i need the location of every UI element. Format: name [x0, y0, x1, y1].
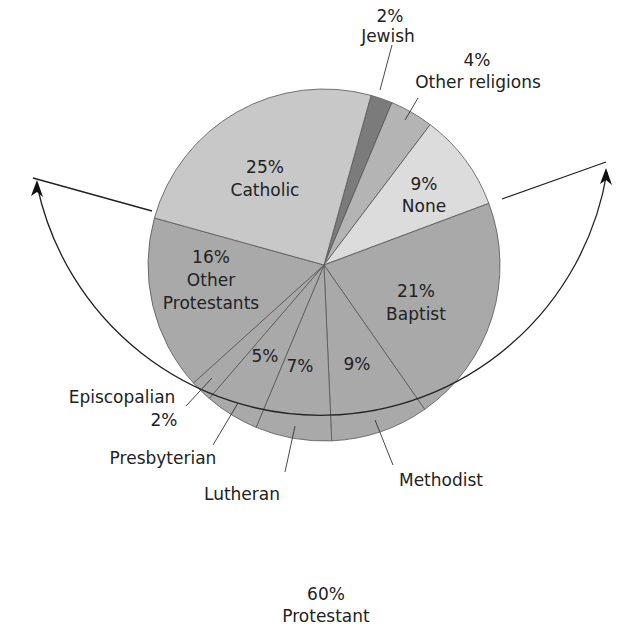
label-baptist: Baptist — [386, 304, 446, 324]
label-presbyterian-pct: 5% — [252, 346, 279, 366]
label-episcopalian: Episcopalian — [69, 387, 176, 407]
label-baptist-pct: 21% — [397, 281, 435, 301]
label-catholic: Catholic — [231, 180, 300, 200]
label-none: None — [402, 196, 446, 216]
label-other-protestants-1: Other — [187, 270, 235, 290]
label-presbyterian: Presbyterian — [110, 448, 217, 468]
label-jewish-pct: 2% — [377, 6, 404, 26]
label-catholic-pct: 25% — [246, 157, 284, 177]
label-jewish: Jewish — [360, 26, 415, 46]
arrowhead-right-icon — [600, 168, 612, 185]
label-methodist-pct: 9% — [344, 354, 371, 374]
label-methodist: Methodist — [399, 470, 483, 490]
label-other-religions-pct: 4% — [464, 50, 491, 70]
pie-chart: 2% Jewish 4% Other religions 9% None 25%… — [0, 0, 643, 639]
label-protestant-pct: 60% — [307, 584, 345, 604]
label-other-protestants-2: Protestants — [163, 293, 259, 313]
label-other-religions: Other religions — [415, 72, 541, 92]
bracket-right-tick — [502, 162, 606, 199]
label-lutheran-pct: 7% — [287, 356, 314, 376]
label-none-pct: 9% — [411, 174, 438, 194]
bracket-left-tick — [33, 178, 152, 211]
label-other-protestants-pct: 16% — [192, 247, 230, 267]
arrowhead-left-icon — [31, 180, 43, 197]
label-protestant: Protestant — [282, 606, 370, 626]
label-lutheran: Lutheran — [204, 484, 280, 504]
label-episcopalian-pct: 2% — [151, 410, 178, 430]
